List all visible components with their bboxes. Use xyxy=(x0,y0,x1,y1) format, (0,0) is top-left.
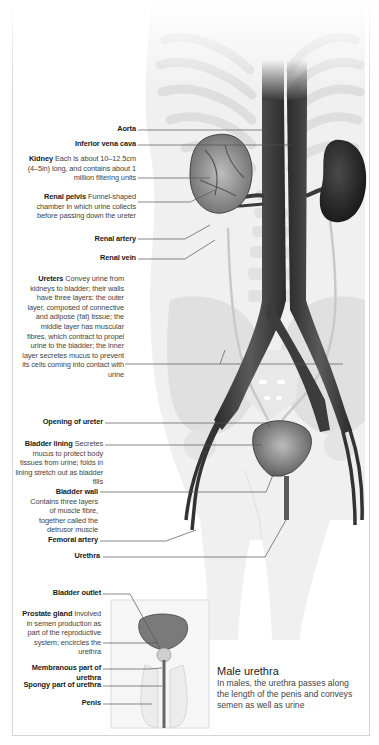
label-ureters: Ureters Convey urine from kidneys to bla… xyxy=(20,274,124,380)
inset-caption: Male urethra In males, the urethra passe… xyxy=(217,665,362,711)
label-renal-vein: Renal vein xyxy=(20,253,136,263)
label-aorta: Aorta xyxy=(20,124,136,134)
label-opening-of-ureter: Opening of ureter xyxy=(14,417,103,427)
label-femoral-artery: Femoral artery xyxy=(20,535,98,545)
label-spongy-urethra: Spongy part of urethra xyxy=(14,680,101,690)
label-inferior-vena-cava: Inferior vena cava xyxy=(20,139,136,149)
label-bladder-outlet: Bladder outlet xyxy=(20,588,101,598)
label-urethra: Urethra xyxy=(20,551,100,561)
inset-text: In males, the urethra passes along the l… xyxy=(217,678,362,711)
male-urethra-inset xyxy=(111,600,209,728)
label-renal-pelvis: Renal pelvis Funnel-shaped chamber in wh… xyxy=(20,192,136,221)
label-kidney: Kidney Each is about 10–12.5cm (4–5in) l… xyxy=(20,154,136,183)
label-renal-artery: Renal artery xyxy=(20,234,136,244)
inset-title: Male urethra xyxy=(217,665,362,678)
kidney-left xyxy=(190,134,252,213)
label-prostate-gland: Prostate gland Involved in semen product… xyxy=(16,609,101,657)
label-penis: Penis xyxy=(14,698,101,708)
label-bladder-lining: Bladder lining Secretes mucus to protect… xyxy=(14,439,103,487)
label-bladder-wall: Bladder wall Contains three layers of mu… xyxy=(30,487,98,535)
